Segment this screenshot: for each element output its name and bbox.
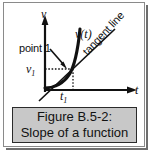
caption-line-1: Figure B.5-2: [37,109,112,125]
x-axis-label: t [135,84,138,96]
figure-frame-shadow-bottom [6,148,148,150]
y-tick-label-v1: v1 [26,63,35,75]
point-1-label: point 1 [19,43,51,54]
figure-container: v t v(t) v1 t1 point 1 tangent line Figu… [0,0,153,154]
caption-line-2: Slope of a function [21,125,129,141]
figure-frame-shadow-right [146,5,148,149]
x-axis [45,87,137,94]
y-axis-label: v [41,8,46,20]
x-tick-label-t1: t1 [60,90,67,102]
plot-area: v t v(t) v1 t1 point 1 tangent line [3,2,145,107]
point-1-arrow [50,49,67,69]
figure-caption-box: Figure B.5-2: Slope of a function [12,107,137,143]
